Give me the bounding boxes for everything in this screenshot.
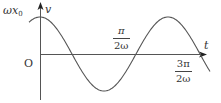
tick1-numerator: π xyxy=(113,26,130,36)
tick1-denominator: 2ω xyxy=(113,41,130,51)
fraction-bar xyxy=(175,71,192,72)
fraction-bar xyxy=(113,38,130,39)
tick-label-3pi-over-2omega: 3π 2ω xyxy=(175,59,192,84)
x-axis-label: t xyxy=(204,40,208,51)
tick-label-pi-over-2omega: π 2ω xyxy=(113,26,130,51)
amplitude-main: ωx xyxy=(3,4,18,17)
origin-label: O xyxy=(24,58,33,69)
velocity-time-diagram: ωx0 v t O π 2ω 3π 2ω xyxy=(0,0,221,103)
y-axis-label: v xyxy=(45,4,51,15)
amplitude-subscript: 0 xyxy=(18,10,22,18)
amplitude-label: ωx0 xyxy=(3,5,23,18)
tick2-denominator: 2ω xyxy=(175,74,192,84)
tick2-numerator: 3π xyxy=(175,59,192,69)
diagram-canvas xyxy=(0,0,221,103)
